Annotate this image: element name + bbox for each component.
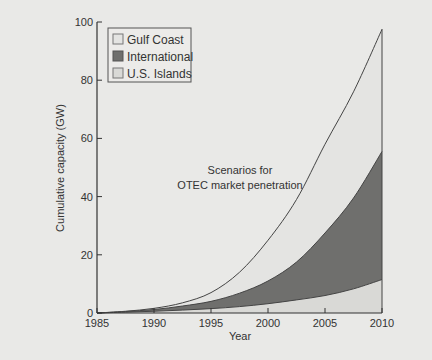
annotation-line-2: OTEC market penetration bbox=[177, 179, 302, 191]
x-tick-label: 1990 bbox=[142, 317, 166, 329]
legend-label-us-islands: U.S. Islands bbox=[127, 67, 192, 81]
y-tick-label: 20 bbox=[81, 249, 93, 261]
legend-swatch-us-islands bbox=[113, 68, 123, 78]
annotation-line-1: Scenarios for bbox=[208, 164, 273, 176]
x-tick-label: 1985 bbox=[85, 317, 109, 329]
legend: Gulf Coast International U.S. Islands bbox=[108, 28, 193, 82]
y-tick-label: 60 bbox=[81, 132, 93, 144]
y-axis-title: Cumulative capacity (GW) bbox=[54, 104, 66, 232]
y-tick-label: 80 bbox=[81, 74, 93, 86]
x-tick-label: 1995 bbox=[199, 317, 223, 329]
legend-label-gulf-coast: Gulf Coast bbox=[127, 33, 184, 47]
x-tick-label: 2005 bbox=[313, 317, 337, 329]
legend-swatch-gulf-coast bbox=[113, 34, 123, 44]
x-axis-title: Year bbox=[229, 330, 252, 342]
otec-chart: 020406080100198519901995200020052010 Sce… bbox=[0, 0, 432, 360]
legend-swatch-international bbox=[113, 51, 123, 61]
y-tick-label: 100 bbox=[75, 16, 93, 28]
x-tick-label: 2000 bbox=[256, 317, 280, 329]
x-tick-label: 2010 bbox=[370, 317, 394, 329]
y-tick-label: 40 bbox=[81, 191, 93, 203]
legend-label-international: International bbox=[127, 50, 193, 64]
